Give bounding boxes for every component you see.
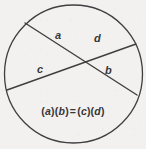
circle-chords-drawing (0, 0, 146, 149)
chord-a-b (25, 23, 137, 95)
chord-segment-label-d: d (94, 33, 101, 44)
chord-segment-label-a: a (55, 30, 61, 41)
formula-right-close: ) (101, 105, 105, 117)
formula-equals-sign: = (69, 105, 77, 117)
circle-outline (5, 5, 143, 143)
chord-theorem-formula: (a)(b)=(c)(d) (0, 105, 146, 117)
chord-segment-label-c: c (37, 64, 43, 75)
formula-left-mid: )( (51, 105, 58, 117)
intersecting-chords-figure: a d c b (a)(b)=(c)(d) (0, 0, 146, 149)
chord-segment-label-b: b (105, 65, 112, 76)
chord-c-d (7, 44, 136, 90)
formula-right-var-d: d (94, 105, 101, 117)
